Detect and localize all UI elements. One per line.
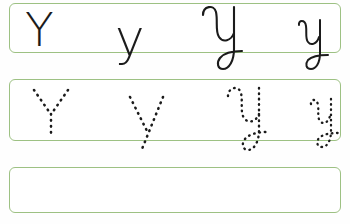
practice-row-trace[interactable] xyxy=(9,79,341,141)
practice-row-blank[interactable] xyxy=(9,167,341,213)
worksheet-sheet: Y y xyxy=(0,0,350,224)
practice-row-model[interactable] xyxy=(9,3,341,53)
